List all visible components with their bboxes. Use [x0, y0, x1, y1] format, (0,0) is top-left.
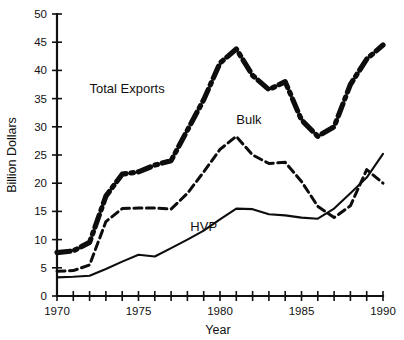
- y-tick-label: 35: [34, 93, 47, 105]
- chart-container: Billion Dollars Year 0510152025303540455…: [0, 0, 404, 340]
- y-tick-label: 50: [34, 8, 47, 20]
- y-axis-title: Billion Dollars: [5, 117, 19, 193]
- y-tick-label: 45: [34, 36, 47, 48]
- series-annotations: Total ExportsBulkHVP: [90, 81, 263, 234]
- x-tick-label: 1980: [207, 305, 233, 317]
- y-tick-label: 10: [34, 234, 47, 246]
- y-tick-label: 30: [34, 121, 47, 133]
- y-tick-label: 0: [41, 290, 47, 302]
- x-tick-label: 1970: [44, 305, 70, 317]
- y-tick-label: 20: [34, 177, 47, 189]
- series-label-hvp: HVP: [190, 219, 217, 234]
- x-tick-label: 1990: [370, 305, 396, 317]
- series-label-total-exports: Total Exports: [90, 81, 166, 96]
- y-tick-label: 40: [34, 64, 47, 76]
- series-line-hvp: [57, 154, 383, 278]
- y-tick-label: 25: [34, 149, 47, 161]
- y-tick-label: 15: [34, 205, 47, 217]
- line-chart: Billion Dollars Year 0510152025303540455…: [0, 0, 404, 340]
- y-axis-tick-labels: 05101520253035404550: [34, 8, 47, 302]
- series-label-bulk: Bulk: [236, 112, 262, 127]
- x-axis-tick-labels: 19701975198019851990: [44, 305, 396, 317]
- x-tick-label: 1985: [289, 305, 315, 317]
- x-axis-title: Year: [205, 323, 230, 337]
- x-tick-label: 1975: [126, 305, 152, 317]
- y-tick-label: 5: [41, 262, 47, 274]
